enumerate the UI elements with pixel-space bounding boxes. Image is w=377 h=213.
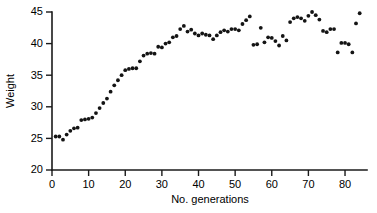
data-point	[354, 21, 358, 25]
data-point	[255, 42, 259, 46]
data-point	[178, 27, 182, 31]
y-tick-label: 25	[31, 132, 43, 144]
y-axis-title: Weight	[4, 74, 16, 108]
x-tick-label: 10	[83, 178, 95, 190]
data-point	[134, 66, 138, 70]
data-point	[160, 45, 164, 49]
data-point	[193, 32, 197, 36]
data-point	[72, 126, 76, 130]
data-point	[350, 51, 354, 55]
data-point	[127, 67, 131, 71]
data-point	[116, 78, 120, 82]
data-point	[215, 33, 219, 37]
data-point	[76, 126, 80, 130]
data-point	[83, 118, 87, 122]
data-point	[292, 16, 296, 20]
data-point	[57, 135, 61, 139]
data-point	[336, 51, 340, 55]
data-point	[285, 39, 289, 43]
data-point	[241, 22, 245, 26]
data-point	[153, 52, 157, 56]
data-point	[230, 27, 234, 31]
data-point	[314, 13, 318, 17]
data-point	[270, 36, 274, 40]
data-point	[164, 42, 168, 46]
data-point	[123, 68, 127, 72]
plot-canvas: 202530354045 01020304050607080 No. gener…	[0, 0, 377, 213]
data-point	[105, 97, 109, 101]
data-point	[167, 40, 171, 44]
data-point	[204, 33, 208, 37]
data-point	[61, 138, 65, 142]
data-point	[186, 30, 190, 34]
data-point	[90, 116, 94, 120]
data-point	[237, 28, 241, 32]
data-point	[197, 33, 201, 37]
data-point	[281, 34, 285, 38]
data-point	[189, 28, 193, 32]
data-point	[94, 111, 98, 115]
data-point	[87, 117, 91, 121]
data-point	[248, 15, 252, 19]
data-point	[109, 90, 113, 94]
x-axis-title: No. generations	[171, 193, 249, 205]
data-point	[149, 51, 153, 55]
x-tick-label: 50	[229, 178, 241, 190]
data-point	[79, 118, 83, 122]
scatter-plot-figure: 202530354045 01020304050607080 No. gener…	[0, 0, 377, 213]
data-point	[142, 54, 146, 58]
data-point	[101, 101, 105, 105]
data-point	[288, 20, 292, 24]
x-tick-label: 80	[339, 178, 351, 190]
data-point	[328, 27, 332, 31]
x-axis-ticks: 01020304050607080	[49, 170, 351, 190]
data-point	[306, 14, 310, 18]
data-point	[296, 15, 300, 19]
data-point	[339, 41, 343, 45]
data-point	[68, 129, 72, 133]
y-tick-label: 20	[31, 163, 43, 175]
data-point	[222, 28, 226, 32]
data-point	[226, 30, 230, 34]
data-point	[200, 32, 204, 36]
data-point-group	[54, 10, 362, 141]
data-point	[138, 59, 142, 63]
x-tick-label: 0	[49, 178, 55, 190]
data-point	[274, 39, 278, 43]
data-point	[98, 106, 102, 110]
data-point	[171, 35, 175, 39]
y-axis-ticks: 202530354045	[31, 5, 52, 175]
data-point	[211, 37, 215, 41]
data-point	[219, 30, 223, 34]
data-point	[325, 30, 329, 34]
data-point	[54, 135, 58, 139]
data-point	[310, 10, 314, 14]
x-tick-label: 70	[302, 178, 314, 190]
data-point	[266, 35, 270, 39]
y-tick-label: 45	[31, 5, 43, 17]
data-point	[182, 24, 186, 28]
data-point	[252, 43, 256, 47]
y-tick-label: 30	[31, 100, 43, 112]
data-point	[259, 26, 263, 30]
data-point	[244, 18, 248, 22]
data-point	[175, 34, 179, 38]
data-point	[332, 27, 336, 31]
data-point	[317, 18, 321, 22]
data-point	[358, 11, 362, 15]
x-tick-label: 60	[266, 178, 278, 190]
x-tick-label: 20	[119, 178, 131, 190]
data-point	[347, 42, 351, 46]
data-point	[65, 133, 69, 137]
data-point	[208, 33, 212, 37]
data-point	[233, 27, 237, 31]
data-point	[303, 19, 307, 23]
data-point	[277, 44, 281, 48]
data-point	[131, 66, 135, 70]
x-tick-label: 40	[192, 178, 204, 190]
data-point	[343, 41, 347, 45]
data-point	[145, 52, 149, 56]
data-point	[299, 16, 303, 20]
data-point	[263, 40, 267, 44]
x-tick-label: 30	[156, 178, 168, 190]
